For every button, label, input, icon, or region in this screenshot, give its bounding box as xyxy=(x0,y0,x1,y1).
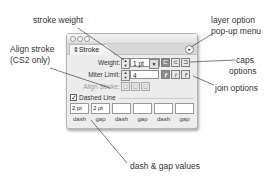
zoom-button[interactable] xyxy=(84,36,90,42)
miter-join-icon: ┏ xyxy=(164,71,168,77)
join-miter-button[interactable]: ┏ xyxy=(161,70,170,79)
step-down-icon: ▼ xyxy=(122,64,129,69)
cap-round-button[interactable]: ⊂ xyxy=(171,58,180,67)
close-button[interactable] xyxy=(70,36,76,42)
weight-label: Weight: xyxy=(67,58,120,67)
dash-3-label: dash xyxy=(154,115,173,123)
divider xyxy=(119,98,193,99)
checkmark-icon: ✓ xyxy=(71,94,77,101)
gap-2-input[interactable] xyxy=(133,103,152,114)
round-join-icon: ╭ xyxy=(174,71,178,77)
projecting-cap-icon: ⊐ xyxy=(183,59,188,65)
callout-dash-gap-values: dash & gap values xyxy=(130,161,200,171)
butt-cap-icon: ⊏ xyxy=(163,59,168,65)
minimize-button[interactable] xyxy=(77,36,83,42)
stroke-panel: ⇕Stroke ▸ Weight: ▲ ▼ 1 pt ▼ ⊏ ⊂ ⊐ Miter… xyxy=(66,33,198,129)
dashed-line-checkbox[interactable]: ✓ xyxy=(70,94,77,101)
callout-caps-2: options xyxy=(229,66,256,76)
tab-stroke[interactable]: ⇕Stroke xyxy=(69,44,114,55)
align-outside-icon: ◻ xyxy=(143,83,148,89)
dash-2-label: dash xyxy=(112,115,131,123)
weight-dropdown-button[interactable]: ▼ xyxy=(149,59,159,69)
gap-1-input[interactable]: 2 pt xyxy=(91,103,110,114)
gap-2-label: gap xyxy=(133,115,152,123)
join-bevel-button[interactable]: ┍ xyxy=(181,70,190,79)
callout-layer-option-2: pop-up menu xyxy=(211,26,261,36)
align-stroke-label: Align Stroke: xyxy=(67,82,120,91)
align-outside-button[interactable]: ◻ xyxy=(141,82,150,91)
callout-align-stroke-1: Align stroke xyxy=(10,44,54,54)
align-center-icon: ◻ xyxy=(123,83,128,89)
callout-caps-1: caps xyxy=(236,55,254,65)
align-center-button[interactable]: ◻ xyxy=(121,82,130,91)
round-cap-icon: ⊂ xyxy=(173,59,178,65)
align-inside-icon: ◻ xyxy=(133,83,138,89)
dash-3-input[interactable] xyxy=(154,103,173,114)
dash-1-input[interactable]: 2 pt xyxy=(70,103,89,114)
gap-3-input[interactable] xyxy=(175,103,194,114)
cap-butt-button[interactable]: ⊏ xyxy=(161,58,170,67)
dash-1-label: dash xyxy=(70,115,89,123)
chevron-down-icon: ▼ xyxy=(152,61,157,67)
tab-row: ⇕Stroke ▸ xyxy=(67,44,197,55)
panel-titlebar[interactable] xyxy=(67,34,197,44)
miter-limit-label: Miter Limit: xyxy=(67,70,120,79)
gap-1-label: gap xyxy=(91,115,110,123)
miter-limit-input[interactable]: 4 xyxy=(130,70,159,79)
menu-arrow-icon: ▸ xyxy=(188,46,191,52)
step-down-icon: ▼ xyxy=(122,76,129,81)
join-round-button[interactable]: ╭ xyxy=(171,70,180,79)
dash-2-input[interactable] xyxy=(112,103,131,114)
callout-align-stroke-2: (CS2 only) xyxy=(10,55,50,65)
bevel-join-icon: ┍ xyxy=(184,71,188,77)
callout-stroke-weight: stroke weight xyxy=(33,15,83,25)
gap-3-label: gap xyxy=(175,115,194,123)
cap-projecting-button[interactable]: ⊐ xyxy=(181,58,190,67)
align-inside-button[interactable]: ◻ xyxy=(131,82,140,91)
panel-menu-button[interactable]: ▸ xyxy=(185,45,194,54)
tab-label: Stroke xyxy=(79,46,99,53)
callout-layer-option-1: layer option xyxy=(211,15,255,25)
dashed-line-label: Dashed Line xyxy=(79,93,116,102)
weight-stepper[interactable]: ▲ ▼ xyxy=(121,58,130,69)
callout-join-options: join options xyxy=(215,83,258,93)
miter-stepper[interactable]: ▲ ▼ xyxy=(121,70,130,81)
